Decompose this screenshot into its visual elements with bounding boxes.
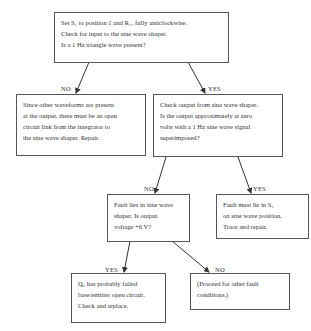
start-node: Set S₁ to position 1 and R₂₇ fully antic… — [54, 12, 229, 63]
check-output-line-4: superimposed? — [160, 132, 276, 143]
edge-label-shaper-no: NO — [215, 266, 225, 273]
no-input-line-2: at the output, there must be an open — [23, 110, 139, 121]
no-input-line-1: Since other waveforms are present — [23, 99, 139, 110]
q5-failed-line-1: Q₅ has probably failed — [78, 278, 159, 289]
edge-label-start-no: NO — [61, 85, 71, 92]
fault-s2-line-2: on sine wave position. — [223, 210, 302, 221]
q5-failed-line-3: Check and replace. — [78, 300, 159, 311]
check-output-line-2: Is the output approximately at zero — [160, 110, 276, 121]
proceed-line-1: (Proceed for other fault — [197, 278, 283, 289]
proceed-line-2: conditions.) — [197, 289, 283, 300]
start-line-3: Is a 1 Hz triangle wave present? — [61, 39, 222, 50]
q5-failed-node: Q₅ has probably failed base/emitter open… — [71, 273, 166, 323]
no-input-line-3: circuit link from the integrator to — [23, 121, 139, 132]
fault-shaper-line-2: shaper. Is output — [114, 210, 183, 221]
fault-shaper-node: Fault lies in sine wave shaper. Is outpu… — [107, 194, 190, 242]
edge-label-check-no: NO — [144, 185, 154, 192]
edge-label-check-yes: YES — [253, 185, 266, 192]
fault-shaper-line-3: voltage +6 V? — [114, 221, 183, 232]
fault-s2-node: Fault must lie in S₂ on sine wave positi… — [216, 194, 309, 239]
no-input-node: Since other waveforms are present at the… — [16, 94, 146, 156]
check-output-line-3: volts with a 1 Hz sine wave signal — [160, 121, 276, 132]
start-line-1: Set S₁ to position 1 and R₂₇ fully antic… — [61, 17, 222, 28]
no-input-line-4: the sine wave shaper. Repair. — [23, 132, 139, 143]
fault-s2-line-3: Trace and repair. — [223, 221, 302, 232]
start-line-2: Check for input to the sine wave shaper. — [61, 28, 222, 39]
proceed-node: (Proceed for other fault conditions.) — [190, 273, 290, 310]
edge-label-start-yes: YES — [208, 85, 221, 92]
fault-shaper-line-1: Fault lies in sine wave — [114, 199, 183, 210]
q5-failed-line-2: base/emitter open circuit. — [78, 289, 159, 300]
edge-label-shaper-yes: YES — [105, 266, 118, 273]
fault-s2-line-1: Fault must lie in S₂ — [223, 199, 302, 210]
check-output-line-1: Check output from sine wave shaper. — [160, 99, 276, 110]
check-output-node: Check output from sine wave shaper. Is t… — [153, 94, 283, 157]
